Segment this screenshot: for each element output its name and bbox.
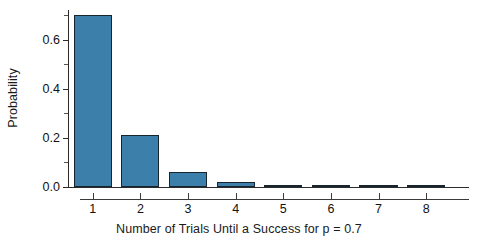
x-axis-tick-label: 1 (89, 202, 96, 216)
x-axis-tick-label: 3 (185, 202, 192, 216)
y-axis-tick-label: 0.4 (43, 82, 60, 96)
x-axis-title: Number of Trials Until a Success for p =… (0, 222, 478, 236)
y-axis-title: Probability (0, 0, 26, 196)
x-axis-tick (426, 193, 427, 199)
x-axis-tick (331, 193, 332, 199)
x-axis-tick-label: 2 (137, 202, 144, 216)
y-axis-minor-tick (64, 15, 68, 16)
x-axis-tick (188, 193, 189, 199)
y-axis-minor-tick (64, 64, 68, 65)
bar-2 (121, 135, 159, 187)
y-axis-tick (63, 187, 68, 188)
y-axis-tick-label: 0.0 (43, 180, 60, 194)
y-axis-tick (63, 138, 68, 139)
x-axis-tick-label: 4 (232, 202, 239, 216)
y-axis-tick (63, 40, 68, 41)
chart-figure: Probability 0.00.20.40.6 Number of Trial… (0, 0, 478, 247)
y-axis-tick (63, 89, 68, 90)
x-axis-tick-label: 6 (327, 202, 334, 216)
x-axis-tick (283, 193, 284, 199)
plot-baseline (68, 187, 469, 188)
y-axis-tick-labels: 0.00.20.40.6 (26, 0, 64, 196)
x-axis-tick (379, 193, 380, 199)
x-axis-tick-label: 8 (423, 202, 430, 216)
x-axis-tick (93, 193, 94, 199)
x-axis-spine (80, 199, 469, 200)
y-axis-tick-label: 0.2 (43, 131, 60, 145)
x-axis-tick-label: 5 (280, 202, 287, 216)
bar-3 (169, 172, 207, 187)
bar-1 (74, 15, 112, 187)
y-axis-title-text: Probability (6, 68, 20, 127)
x-axis-tick (140, 193, 141, 199)
y-axis-minor-tick (64, 113, 68, 114)
y-axis-minor-tick (64, 162, 68, 163)
x-axis-tick-label: 7 (375, 202, 382, 216)
y-axis-tick-label: 0.6 (43, 33, 60, 47)
plot-area (69, 10, 469, 187)
x-axis-tick (236, 193, 237, 199)
